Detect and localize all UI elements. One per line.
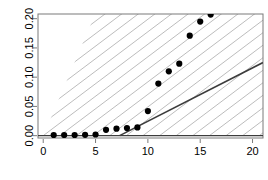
y-tick-label: 0.15	[23, 37, 35, 58]
data-point	[134, 124, 140, 130]
data-point	[176, 61, 182, 67]
data-point	[124, 125, 130, 131]
x-tick-label: 15	[194, 145, 206, 157]
x-tick-label: 0	[40, 145, 46, 157]
y-tick-label: 0.05	[23, 96, 35, 117]
data-point	[187, 33, 193, 39]
data-point	[103, 127, 109, 133]
data-point	[113, 126, 119, 132]
y-tick-label: 0.10	[23, 66, 35, 87]
x-tick-label: 5	[92, 145, 98, 157]
data-point	[51, 132, 57, 138]
data-point	[72, 132, 78, 138]
data-point	[166, 68, 172, 74]
scatter-plot: 05101520 0.000.050.100.150.20	[0, 0, 268, 180]
data-point	[197, 19, 203, 25]
y-axis: 0.000.050.100.150.20	[23, 8, 37, 146]
y-tick-label: 0.20	[23, 8, 35, 29]
data-point	[61, 132, 67, 138]
data-point	[145, 108, 151, 114]
data-point	[82, 132, 88, 138]
chart-canvas: 05101520 0.000.050.100.150.20	[0, 0, 268, 180]
x-tick-label: 10	[142, 145, 154, 157]
data-point	[92, 131, 98, 137]
x-tick-label: 20	[246, 145, 258, 157]
data-point	[155, 81, 161, 87]
y-tick-label: 0.00	[23, 125, 35, 146]
